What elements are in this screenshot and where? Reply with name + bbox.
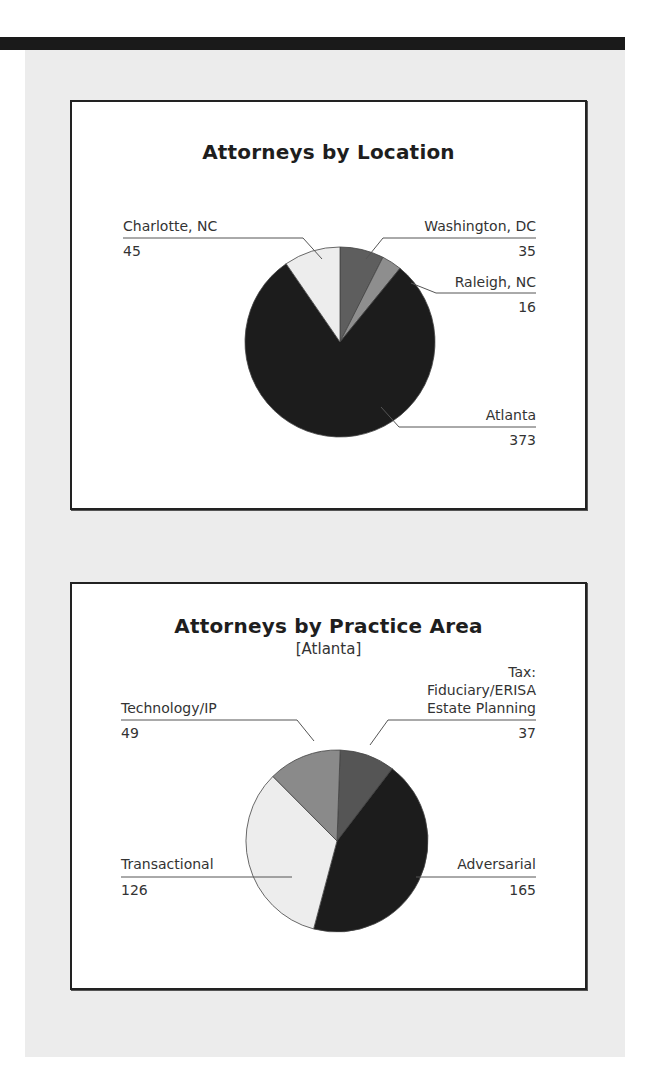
pie-slices (246, 750, 428, 932)
label-atlanta-value: 373 (509, 432, 536, 448)
label-tax-line3: Estate Planning (427, 700, 536, 716)
pie-location (72, 102, 585, 508)
label-adversarial-value: 165 (509, 882, 536, 898)
header-bar (0, 37, 625, 50)
label-washington-name: Washington, DC (424, 218, 536, 234)
chart-practice-area: Attorneys by Practice Area [Atlanta] Tec… (70, 582, 587, 990)
pie-slices (245, 247, 435, 437)
label-transactional-name: Transactional (121, 856, 214, 872)
label-tax-line1: Tax: (508, 664, 536, 680)
label-technology-name: Technology/IP (121, 700, 217, 716)
label-transactional-value: 126 (121, 882, 148, 898)
label-raleigh-name: Raleigh, NC (455, 274, 536, 290)
label-charlotte-name: Charlotte, NC (123, 218, 217, 234)
label-technology-value: 49 (121, 725, 139, 741)
label-tax-value: 37 (518, 725, 536, 741)
label-raleigh-value: 16 (518, 299, 536, 315)
pie-practice-area (72, 584, 585, 988)
label-charlotte-value: 45 (123, 243, 141, 259)
label-washington-value: 35 (518, 243, 536, 259)
label-adversarial-name: Adversarial (457, 856, 536, 872)
label-tax-line2: Fiduciary/ERISA (427, 682, 536, 698)
chart-location: Attorneys by Location Charlotte, NC 45 W… (70, 100, 587, 510)
label-atlanta-name: Atlanta (486, 407, 536, 423)
